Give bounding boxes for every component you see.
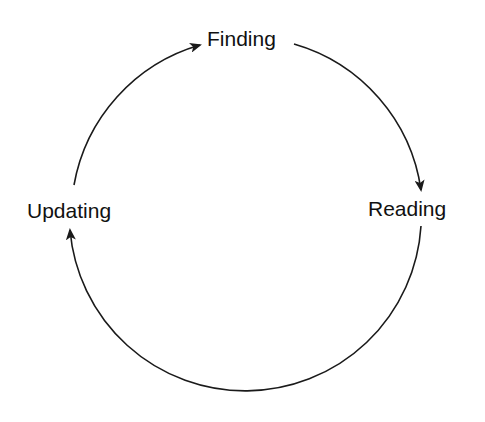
node-reading: Reading	[368, 198, 446, 219]
node-updating: Updating	[27, 200, 111, 221]
arrow-finding-to-reading	[294, 44, 421, 190]
arrow-reading-to-updating	[70, 226, 421, 391]
node-finding: Finding	[207, 28, 276, 49]
arrow-updating-to-finding	[74, 45, 200, 185]
